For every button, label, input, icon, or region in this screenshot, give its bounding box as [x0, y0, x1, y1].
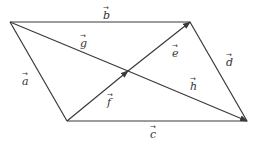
label-g: → g: [80, 32, 87, 50]
svg-text:e: e: [172, 47, 179, 60]
vector-f-line: [67, 71, 128, 121]
label-c: → c: [150, 123, 156, 141]
parallelogram-diagram: → b → a → c → d → g → h → e → f: [0, 0, 259, 146]
vector-h-line: [128, 71, 247, 121]
label-h: → h: [190, 75, 197, 93]
vector-a-line: [10, 22, 67, 121]
svg-text:h: h: [190, 80, 197, 93]
svg-text:g: g: [80, 37, 87, 50]
svg-text:b: b: [103, 9, 110, 22]
label-a: → a: [22, 70, 29, 88]
vector-e-line: [128, 22, 190, 71]
vector-d-line: [190, 22, 247, 121]
svg-text:d: d: [226, 56, 233, 69]
label-f: → f: [106, 91, 113, 109]
label-b: → b: [103, 4, 110, 22]
label-e: → e: [172, 42, 179, 60]
svg-text:a: a: [22, 75, 29, 88]
label-d: → d: [226, 51, 233, 69]
vector-g-line: [10, 22, 128, 71]
svg-text:c: c: [150, 128, 156, 141]
